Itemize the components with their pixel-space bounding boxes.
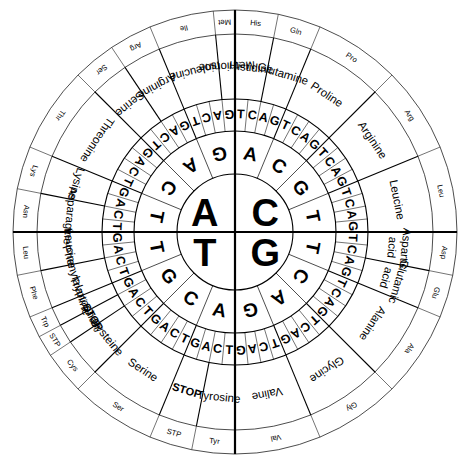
- amino-acid-abbreviation: Ile: [179, 23, 189, 34]
- second-base-cell: G: [210, 142, 229, 165]
- second-base-cell: C: [268, 153, 291, 178]
- amino-acid-label: Leucine: [388, 179, 408, 221]
- first-base-g: G: [250, 232, 280, 274]
- third-base-cell: C: [344, 244, 359, 255]
- amino-acid-abbreviation: Leu: [21, 246, 31, 259]
- second-base-cell: C: [179, 286, 202, 311]
- first-base-t: T: [193, 232, 216, 274]
- amino-acid-label: Glutamicacid: [374, 254, 411, 305]
- second-base-cell: T: [301, 240, 324, 256]
- third-base-cell: T: [225, 343, 234, 357]
- third-base-cell: G: [110, 233, 124, 243]
- third-base-cell: A: [200, 339, 212, 355]
- second-base-cell: T: [146, 209, 169, 225]
- amino-acid-abbreviation: Met: [217, 17, 231, 27]
- third-base-cell: C: [258, 339, 270, 355]
- third-base-cell: T: [237, 107, 246, 121]
- third-base-cell: C: [247, 108, 258, 123]
- third-base-cell: A: [113, 197, 129, 209]
- ring-rules: [13, 10, 457, 454]
- amino-acid-abbreviation: Leu: [435, 184, 446, 198]
- third-base-cell: C: [111, 209, 126, 220]
- amino-acid-abbreviation: Cys: [65, 357, 80, 373]
- amino-acid-abbreviation: Lys: [28, 164, 40, 178]
- third-base-cell: G: [224, 107, 234, 121]
- amino-acid-label: Alanine: [357, 305, 388, 344]
- third-base-cell: G: [346, 221, 360, 231]
- amino-acid-label: Proline: [309, 79, 345, 109]
- third-base-cell: C: [342, 197, 358, 209]
- second-base-cell: T: [302, 209, 325, 225]
- amino-acid-abbreviation: Phe: [28, 285, 41, 301]
- third-base-cell: A: [212, 108, 223, 123]
- amino-acid-abbreviation: STP: [166, 427, 183, 440]
- amino-acid-label: Threonine: [78, 115, 117, 165]
- second-base-cell: T: [146, 240, 169, 256]
- second-base-cell: G: [241, 298, 260, 321]
- second-base-cell: A: [211, 298, 229, 321]
- amino-acid-abbreviation: Gln: [289, 25, 303, 37]
- first-base-a: A: [191, 192, 218, 234]
- amino-acid-label: Serine: [126, 355, 160, 383]
- amino-acid-abbreviation: Ser: [94, 62, 109, 77]
- second-base-cell: A: [242, 142, 260, 165]
- second-base-cell: C: [288, 265, 313, 288]
- amino-acid-abbreviation: Asn: [21, 204, 31, 218]
- amino-acid-label: Glycine: [308, 354, 347, 385]
- amino-acid-abbreviation: Ser: [111, 400, 126, 414]
- third-base-cell: T: [110, 222, 124, 231]
- amino-acid-label: STOP: [171, 380, 203, 400]
- amino-acid-abbreviation: Ala: [402, 342, 416, 357]
- amino-acid-abbreviation: STP: [47, 331, 62, 348]
- amino-acid-abbreviation: Glu: [430, 286, 442, 300]
- third-base-cell: A: [111, 244, 126, 255]
- amino-acid-abbreviation: Gly: [344, 400, 359, 414]
- amino-acid-abbreviation: Asp: [439, 246, 449, 260]
- amino-acid-label: Arginine: [356, 119, 389, 161]
- amino-acid-label: Methionine: [198, 59, 255, 74]
- amino-acid-abbreviation: Tyr: [209, 436, 221, 446]
- third-base-cell: C: [212, 341, 223, 356]
- amino-acid-abbreviation: Trp: [39, 315, 52, 329]
- second-base-cell: G: [288, 176, 314, 200]
- second-base-cell: A: [267, 286, 290, 311]
- third-base-cell: A: [247, 341, 258, 356]
- amino-acid-abbreviation: Thr: [53, 108, 67, 123]
- amino-acid-abbreviation: His: [250, 18, 262, 28]
- third-base-cell: T: [346, 234, 360, 243]
- amino-acid-label: Valine: [251, 385, 284, 403]
- amino-acid-label: Lysine: [66, 167, 87, 202]
- first-base-c: C: [251, 192, 278, 234]
- amino-acid-abbreviation: Val: [270, 433, 282, 444]
- second-base-cell: G: [156, 264, 182, 288]
- amino-acid-abbreviation: Arg: [403, 108, 417, 123]
- third-base-cell: A: [344, 209, 359, 220]
- amino-acid-abbreviation: Pro: [344, 50, 359, 64]
- genetic-code-wheel: HisGlnProArgLeuAspGluAlaGlyValTyrSTPSerC…: [0, 0, 470, 465]
- second-base-cell: C: [156, 176, 181, 199]
- third-base-cell: G: [236, 343, 246, 357]
- code-wheel-svg: HisGlnProArgLeuAspGluAlaGlyValTyrSTPSerC…: [0, 0, 470, 465]
- amino-acid-abbreviation: Arg: [129, 40, 144, 54]
- second-base-cell: A: [179, 153, 202, 178]
